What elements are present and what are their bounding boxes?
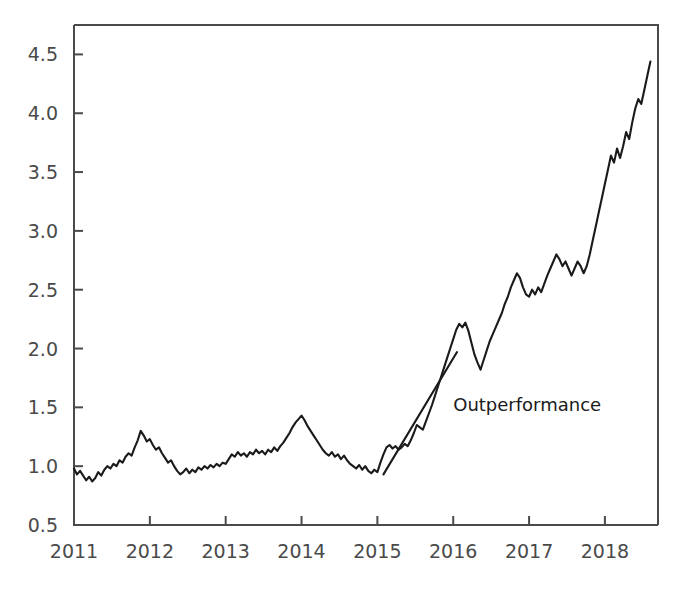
y-tick-label: 4.5 [28,43,58,65]
y-tick-label: 0.5 [28,514,58,536]
x-tick-label: 2011 [50,540,98,562]
y-tick-label: 3.0 [28,220,58,242]
x-tick-label: 2013 [202,540,250,562]
outperformance-label: Outperformance [453,394,601,415]
x-tick-label: 2014 [277,540,325,562]
x-tick-label: 2015 [353,540,401,562]
annotations-group: Outperformance [453,394,601,415]
line-chart: 0.51.01.52.02.53.03.54.04.5 201120122013… [0,0,684,590]
x-tick-label: 2012 [126,540,174,562]
y-tick-label: 3.5 [28,161,58,183]
y-tick-label: 2.0 [28,338,58,360]
chart-container: 0.51.01.52.02.53.03.54.04.5 201120122013… [0,0,684,590]
y-tick-label: 2.5 [28,279,58,301]
y-tick-label: 1.0 [28,455,58,477]
x-tick-label: 2016 [429,540,477,562]
y-tick-label: 4.0 [28,102,58,124]
y-tick-label: 1.5 [28,396,58,418]
chart-background [0,0,684,590]
x-tick-label: 2017 [505,540,553,562]
x-tick-label: 2018 [581,540,629,562]
y-axis-tick-labels: 0.51.01.52.02.53.03.54.04.5 [28,43,58,536]
